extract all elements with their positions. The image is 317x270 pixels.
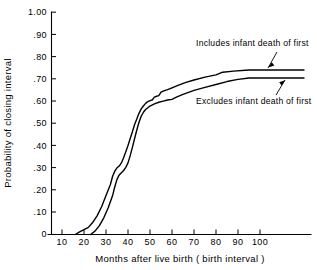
x-tick-label: 100 [252,237,268,247]
series-line-includes-infant-death [75,70,304,235]
y-tick-label: .30 [33,163,47,173]
x-tick-group: 30 [101,230,112,248]
y-tick-group: 0 [42,229,47,239]
y-tick-group: .40 [33,141,56,151]
chart-annotations: Includes infant death of first Excludes … [196,38,312,106]
annotation-includes-arrowhead [268,62,274,67]
y-tick-label: .20 [33,185,47,195]
x-tick-label: 30 [101,237,112,247]
annotation-excludes-label: Excludes infant death of first [196,96,312,106]
x-axis-title: Months after live birth ( birth interval… [95,253,264,264]
x-axis-ticks: 10 20 30 40 50 60 70 80 90 100 [57,230,269,248]
chart-series-group [75,70,304,235]
y-tick-group: .80 [33,52,56,62]
y-tick-label: .60 [33,96,47,106]
x-tick-group: 10 [57,230,68,248]
y-tick-label: .50 [33,118,47,128]
y-tick-label: 1.00 [28,7,47,17]
y-tick-group: .30 [33,163,56,173]
x-tick-label: 60 [167,237,178,247]
x-tick-label: 70 [189,237,200,247]
x-tick-group: 70 [189,230,200,248]
x-tick-group: 40 [123,230,134,248]
line-chart-svg: 1.00 .90 .80 .70 .60 .50 .40 .30 .20 .10… [0,0,317,270]
x-tick-group: 90 [233,230,244,248]
y-tick-label: .90 [33,30,47,40]
x-tick-label: 80 [211,237,222,247]
y-tick-group: .90 [33,30,56,40]
y-tick-group: .50 [33,118,56,128]
y-tick-group: .10 [33,207,56,217]
y-tick-group: .70 [33,74,56,84]
y-tick-label: .80 [33,52,47,62]
x-tick-group: 60 [167,230,178,248]
y-tick-group: .20 [33,185,56,195]
x-tick-label: 40 [123,237,134,247]
x-tick-label: 50 [145,237,156,247]
chart-figure: 1.00 .90 .80 .70 .60 .50 .40 .30 .20 .10… [0,0,317,270]
x-tick-label: 90 [233,237,244,247]
annotation-includes-label: Includes infant death of first [196,38,309,48]
y-tick-label: .70 [33,74,47,84]
y-tick-label: 0 [42,229,47,239]
y-tick-label: .10 [33,207,47,217]
x-tick-label: 20 [79,237,90,247]
y-tick-label: .40 [33,141,47,151]
y-axis-title: Probability of closing interval [2,58,13,188]
x-tick-group: 50 [145,230,156,248]
x-tick-group: 80 [211,230,222,248]
x-tick-group: 100 [252,230,268,248]
x-tick-label: 10 [57,237,68,247]
y-tick-group: .60 [33,96,56,106]
